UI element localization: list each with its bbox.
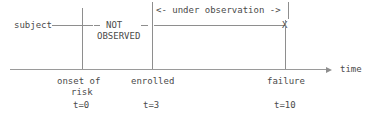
event-time-enrolled: t=3 xyxy=(143,100,159,111)
timeline-diagram: subject NOT OBSERVED <- under observatio… xyxy=(0,0,373,118)
observation-bracket-right-tick xyxy=(288,2,289,19)
event-label-failure: failure xyxy=(267,76,305,87)
observation-line xyxy=(154,25,285,26)
event-line-enrolled xyxy=(152,2,153,70)
event-label-onset-of-risk-line1: onset of xyxy=(57,76,100,87)
under-observation-label: <- under observation -> xyxy=(156,5,281,16)
subject-line-dash-left xyxy=(94,25,100,26)
time-axis-label: time xyxy=(340,64,362,75)
not-observed-line1: NOT xyxy=(106,20,122,31)
time-axis-line xyxy=(10,69,330,70)
event-time-failure: t=10 xyxy=(274,100,296,111)
subject-line-pre-onset xyxy=(52,25,93,26)
subject-line-dash-right xyxy=(141,25,148,26)
event-time-onset-of-risk: t=0 xyxy=(73,100,89,111)
subject-label: subject xyxy=(14,20,52,31)
event-label-onset-of-risk-line2: risk xyxy=(71,87,93,98)
event-line-failure xyxy=(285,20,286,70)
not-observed-line2: OBSERVED xyxy=(97,31,140,42)
event-label-enrolled: enrolled xyxy=(131,76,174,87)
event-line-onset-of-risk xyxy=(82,8,83,70)
time-axis-arrow-icon xyxy=(326,67,332,73)
